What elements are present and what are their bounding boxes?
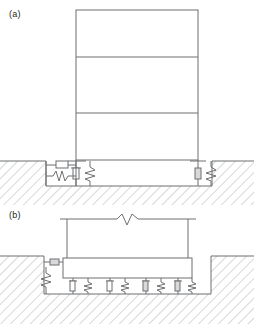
panel-b-drawing <box>0 205 254 324</box>
truncated-superstructure <box>60 214 196 258</box>
rigid-base-mat <box>63 258 192 278</box>
panel-a-drawing <box>0 0 254 205</box>
panel-a: (a) <box>0 0 254 205</box>
ground-soil <box>0 161 254 205</box>
vertical-isolator-1 <box>69 278 92 294</box>
right-column-base <box>190 160 206 168</box>
vertical-isolator-2 <box>106 278 129 294</box>
left-vertical-spring-icon <box>85 161 95 186</box>
three-story-frame <box>76 10 198 160</box>
panel-b: (b) <box>0 205 254 324</box>
vertical-isolator-4 <box>174 278 196 294</box>
left-horizontal-damper-icon <box>46 161 76 168</box>
right-vertical-damper-icon <box>195 168 201 186</box>
vertical-isolator-3 <box>142 278 165 294</box>
left-horizontal-damper-icon <box>44 259 63 265</box>
break-symbol-icon <box>117 214 138 225</box>
